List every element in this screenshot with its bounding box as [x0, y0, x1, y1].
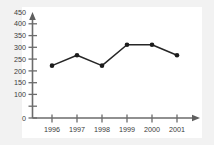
x-tick-label-2000: 2000	[144, 125, 160, 134]
y-tick-label-300: 300	[14, 43, 26, 52]
x-tick-label-1999: 1999	[119, 125, 135, 134]
chart-screenshot: 0 100 150 200 250 300 350 400 450 1996 1…	[0, 0, 214, 145]
data-point-2001	[175, 53, 180, 58]
y-tick-label-200: 200	[14, 67, 26, 76]
data-point-1999	[125, 42, 130, 47]
data-point-2000	[150, 42, 155, 47]
line-chart: 0 100 150 200 250 300 350 400 450 1996 1…	[0, 0, 214, 145]
y-tick-label-250: 250	[14, 55, 26, 64]
y-tick-label-450: 450	[14, 8, 26, 17]
data-point-1996	[50, 63, 55, 68]
x-tick-label-2001: 2001	[169, 125, 185, 134]
x-tick-label-1998: 1998	[94, 125, 110, 134]
x-tick-label-1996: 1996	[44, 125, 60, 134]
y-tick-label-100: 100	[14, 90, 26, 99]
data-point-1998	[100, 63, 105, 68]
data-point-1997	[75, 53, 80, 58]
y-tick-label-400: 400	[14, 19, 26, 28]
y-tick-label-350: 350	[14, 31, 26, 40]
y-tick-label-0: 0	[22, 114, 26, 123]
y-tick-label-150: 150	[14, 78, 26, 87]
x-tick-label-1997: 1997	[69, 125, 85, 134]
